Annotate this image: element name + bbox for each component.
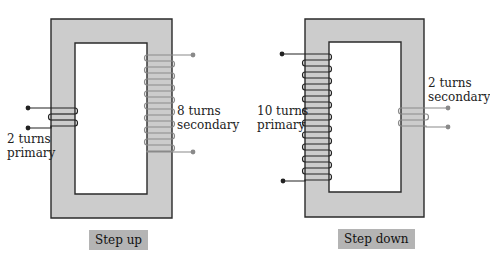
primary-role-text: primary [7, 146, 55, 160]
step-down-primary-label: 10 turns primary [257, 104, 308, 132]
step-down-secondary-label: 2 turns secondary [428, 76, 490, 104]
step-down-core [305, 19, 424, 217]
secondary-role-text: secondary [428, 90, 490, 104]
primary-turns-text: 10 turns [257, 104, 308, 118]
step-up-transformer [26, 19, 196, 218]
secondary-turns-text: 2 turns [428, 76, 490, 90]
step-down-caption: Step down [338, 229, 415, 249]
step-up-secondary-label: 8 turns secondary [177, 104, 239, 132]
step-up-core [51, 19, 172, 218]
secondary-turns-text: 8 turns [177, 104, 239, 118]
primary-turns-text: 2 turns [7, 132, 55, 146]
primary-role-text: primary [257, 118, 308, 132]
step-up-primary-label: 2 turns primary [7, 132, 55, 160]
step-up-caption: Step up [89, 230, 148, 250]
secondary-role-text: secondary [177, 118, 239, 132]
